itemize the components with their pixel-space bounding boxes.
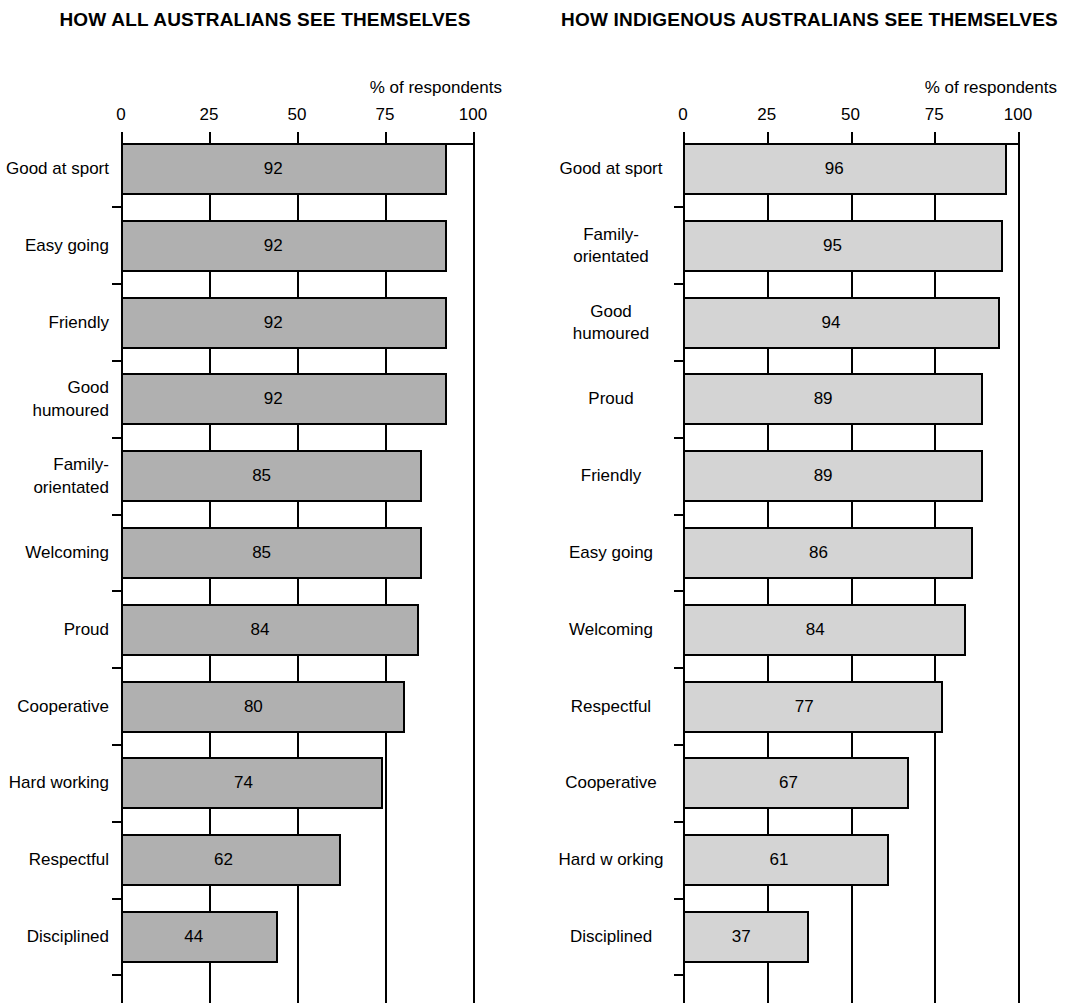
bar (121, 450, 422, 502)
category-label: Cooperative (1, 696, 109, 718)
category-label: Friendly (1, 312, 109, 334)
x-tick-mark (385, 132, 387, 143)
y-tick-mark (112, 206, 121, 208)
y-tick-mark (674, 898, 683, 900)
bar-value-label: 92 (264, 159, 283, 179)
category-label: Good at sport (1, 158, 109, 180)
bar-value-label: 67 (779, 773, 798, 793)
bar-row: 92 (121, 373, 473, 425)
axis-right-line (473, 143, 475, 1003)
category-label: Friendly (551, 465, 671, 487)
x-tick-mark (767, 132, 769, 143)
x-tick-mark (1018, 132, 1020, 143)
bar-row: 94 (683, 297, 1018, 349)
bar-value-label: 84 (251, 620, 270, 640)
x-axis-tick-labels-left: 0255075100 (121, 105, 473, 127)
bar-value-label: 85 (252, 466, 271, 486)
bar-value-label: 96 (825, 159, 844, 179)
x-tick-label: 0 (678, 105, 687, 125)
bar-row: 44 (121, 911, 473, 963)
x-tick-label: 25 (757, 105, 776, 125)
x-tick-mark (851, 132, 853, 143)
y-tick-mark (112, 283, 121, 285)
bar-value-label: 95 (823, 236, 842, 256)
y-tick-mark (674, 206, 683, 208)
y-tick-mark (674, 514, 683, 516)
category-label: Welcoming (551, 619, 671, 641)
x-tick-label: 75 (376, 105, 395, 125)
x-tick-label: 100 (1004, 105, 1032, 125)
y-tick-mark (674, 283, 683, 285)
x-tick-mark (121, 132, 123, 143)
chart-title-indigenous-australians: HOW INDIGENOUS AUSTRALIANS SEE THEMSELVE… (560, 8, 1059, 33)
chart-panel-all-australians: HOW ALL AUSTRALIANS SEE THEMSELVES % of … (0, 0, 540, 993)
bar-value-label: 77 (795, 697, 814, 717)
y-tick-mark (674, 974, 683, 976)
bar (121, 604, 419, 656)
bar-value-label: 74 (234, 773, 253, 793)
category-label: Hard working (1, 772, 109, 794)
x-tick-label: 25 (200, 105, 219, 125)
bar (121, 527, 422, 579)
bar-value-label: 92 (264, 389, 283, 409)
bar-row: 67 (683, 757, 1018, 809)
x-tick-mark (683, 132, 685, 143)
bar-row: 37 (683, 911, 1018, 963)
bar-row: 85 (121, 527, 473, 579)
category-label: Easy going (1, 235, 109, 257)
bar-value-label: 85 (252, 543, 271, 563)
bar-row: 92 (121, 297, 473, 349)
bar-row: 89 (683, 450, 1018, 502)
bar (121, 220, 447, 272)
category-label: Good at sport (551, 158, 671, 180)
category-label: Disciplined (551, 926, 671, 948)
axis-right-line (1018, 143, 1020, 1003)
category-label: Good humoured (551, 301, 671, 346)
category-label: Respectful (1, 849, 109, 871)
y-tick-mark (112, 821, 121, 823)
x-tick-mark (209, 132, 211, 143)
bar-value-label: 92 (264, 236, 283, 256)
bar (683, 450, 983, 502)
category-label: Hard w orking (551, 849, 671, 871)
bar-row: 77 (683, 681, 1018, 733)
bar-row: 84 (683, 604, 1018, 656)
category-label: Proud (1, 619, 109, 641)
chart-title-all-australians: HOW ALL AUSTRALIANS SEE THEMSELVES (30, 8, 500, 33)
bar (683, 220, 1003, 272)
bar-value-label: 37 (732, 927, 751, 947)
bar (121, 143, 447, 195)
y-tick-mark (112, 898, 121, 900)
bar (683, 527, 973, 579)
bar-row: 62 (121, 834, 473, 886)
x-axis-tick-labels-right: 0255075100 (683, 105, 1018, 127)
bar-value-label: 92 (264, 313, 283, 333)
y-tick-mark (112, 667, 121, 669)
category-label: Proud (551, 388, 671, 410)
bar-row: 61 (683, 834, 1018, 886)
y-tick-mark (112, 437, 121, 439)
category-label: Family- orientated (1, 454, 109, 499)
y-tick-mark (674, 437, 683, 439)
bar-row: 84 (121, 604, 473, 656)
x-tick-mark (473, 132, 475, 143)
x-tick-mark (297, 132, 299, 143)
bar-value-label: 86 (809, 543, 828, 563)
y-tick-mark (112, 360, 121, 362)
bar-row: 89 (683, 373, 1018, 425)
category-label: Good humoured (1, 377, 109, 422)
y-tick-mark (112, 974, 121, 976)
bar (683, 143, 1007, 195)
bar-row: 96 (683, 143, 1018, 195)
bar-row: 74 (121, 757, 473, 809)
y-tick-mark (112, 744, 121, 746)
bar-value-label: 89 (814, 466, 833, 486)
bar-value-label: 89 (814, 389, 833, 409)
bar-row: 92 (121, 143, 473, 195)
bar (683, 297, 1000, 349)
bar-value-label: 44 (184, 927, 203, 947)
y-tick-mark (674, 360, 683, 362)
axis-caption-left: % of respondents (370, 78, 502, 98)
bar-value-label: 94 (822, 313, 841, 333)
